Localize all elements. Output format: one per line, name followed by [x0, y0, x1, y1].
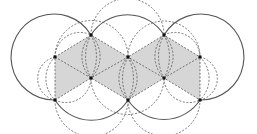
large-circle-2: [91, 15, 164, 35]
vertex-i: [163, 77, 166, 80]
vertex-a: [54, 56, 57, 59]
circle-chain-diagram: [0, 0, 257, 134]
vertex-d: [163, 34, 166, 37]
shaded-band: [55, 35, 200, 100]
vertex-g: [90, 77, 93, 80]
vertex-c: [127, 56, 130, 59]
vertex-h: [127, 99, 130, 102]
vertex-j: [199, 99, 202, 102]
large-circle-4: [55, 100, 128, 120]
vertex-b: [90, 34, 93, 37]
large-circle-5: [128, 100, 200, 119]
vertex-e: [199, 56, 202, 59]
vertex-f: [54, 99, 57, 102]
